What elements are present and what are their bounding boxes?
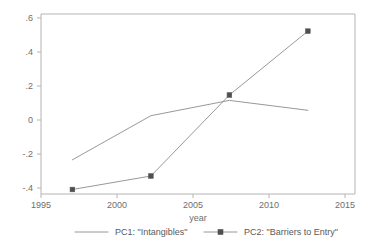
x-tick-label: 1995: [31, 200, 51, 210]
legend-label-pc2: PC2: "Barriers to Entry": [244, 227, 338, 237]
x-tick-label: 2015: [335, 200, 355, 210]
x-tick-label: 2010: [259, 200, 279, 210]
x-tick-label: 2000: [107, 200, 127, 210]
y-axis-tick-labels: .6 .4 .2 0 -.2 -.4: [22, 13, 33, 193]
y-tick-label: 0: [28, 115, 33, 125]
y-tick-label: .2: [25, 81, 33, 91]
x-axis-tick-labels: 1995 2000 2005 2010 2015: [31, 200, 355, 210]
chart-legend: PC1: "Intangibles" PC2: "Barriers to Ent…: [75, 227, 338, 237]
series-layer: [70, 29, 310, 192]
chart-container: .6 .4 .2 0 -.2 -.4 1995 2000 2005 2010 2…: [0, 0, 375, 250]
data-point-marker: [70, 187, 75, 192]
y-axis-ticks: [37, 18, 41, 188]
x-axis-ticks: [41, 194, 345, 198]
data-point-marker: [306, 29, 311, 34]
y-tick-label: -.4: [22, 183, 33, 193]
y-tick-label: .4: [25, 47, 33, 57]
legend-marker-square-icon: [218, 230, 223, 235]
series-line-pc1: [72, 100, 308, 159]
y-tick-label: -.2: [22, 149, 33, 159]
data-point-marker: [227, 93, 232, 98]
data-point-marker: [149, 174, 154, 179]
plot-frame: [41, 14, 355, 194]
y-tick-label: .6: [25, 13, 33, 23]
series-line-pc2: [72, 31, 308, 189]
x-axis-title: year: [189, 213, 207, 223]
line-chart-svg: .6 .4 .2 0 -.2 -.4 1995 2000 2005 2010 2…: [0, 0, 375, 250]
legend-label-pc1: PC1: "Intangibles": [115, 227, 187, 237]
x-tick-label: 2005: [183, 200, 203, 210]
